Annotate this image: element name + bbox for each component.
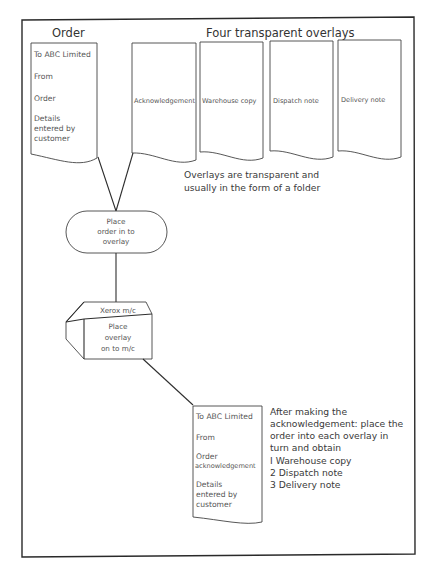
flowchart-diagram: Order To ABC Limited From Order Details … xyxy=(0,0,429,571)
output-line-acknowledgement: acknowledgement xyxy=(195,462,256,470)
place-order-line3: overlay xyxy=(103,237,130,246)
instructions-line4: turn and obtain xyxy=(270,442,341,453)
connector-order-to-process xyxy=(98,157,116,211)
order-line-details: Details xyxy=(34,114,60,123)
output-line-details: Details xyxy=(196,480,222,489)
overlays-note-line2: usually in the form of a folder xyxy=(184,182,320,193)
overlay-label: Warehouse copy xyxy=(202,97,257,105)
overlay-warehouse-copy: Warehouse copy xyxy=(200,42,263,160)
connector-overlay-to-process xyxy=(116,153,133,211)
order-line-from: From xyxy=(34,72,53,81)
xerox-line2: overlay xyxy=(105,333,132,342)
instructions-item-3: 3 Delivery note xyxy=(270,479,341,490)
instructions-item-1: I Warehouse copy xyxy=(270,455,352,466)
overlay-label: Delivery note xyxy=(341,96,385,104)
output-line-from: From xyxy=(196,433,215,442)
overlays-title: Four transparent overlays xyxy=(206,26,355,40)
order-line-customer: customer xyxy=(34,134,71,143)
overlay-dispatch-note: Dispatch note xyxy=(270,41,333,159)
order-line-order: Order xyxy=(34,94,56,103)
place-order-line1: Place xyxy=(106,217,126,226)
order-line-entered: entered by xyxy=(34,124,76,133)
overlay-acknowledgement: Acknowledgement xyxy=(132,43,196,162)
xerox-line1: Place xyxy=(108,322,128,331)
instructions-line3: order into each overlay in xyxy=(270,430,389,441)
xerox-label: Xerox m/c xyxy=(100,306,136,315)
output-line-order: Order xyxy=(196,452,218,461)
overlay-label: Dispatch note xyxy=(273,97,319,105)
output-line-to: To ABC Limited xyxy=(195,412,253,421)
order-line-to: To ABC Limited xyxy=(33,50,91,59)
output-line-entered: entered by xyxy=(196,490,238,499)
overlay-label: Acknowledgement xyxy=(134,97,195,105)
instructions-line1: After making the xyxy=(270,406,347,417)
instructions-item-2: 2 Dispatch note xyxy=(270,467,343,478)
order-title: Order xyxy=(52,26,85,40)
xerox-line3: on to m/c xyxy=(101,344,135,353)
overlay-delivery-note: Delivery note xyxy=(338,40,401,159)
instructions-line2: acknowledgement: place the xyxy=(270,418,404,429)
place-order-line2: order in to xyxy=(97,227,135,236)
overlays-note-line1: Overlays are transparent and xyxy=(184,169,319,180)
output-line-customer: customer xyxy=(196,500,233,509)
connector-xerox-to-output xyxy=(143,359,193,405)
